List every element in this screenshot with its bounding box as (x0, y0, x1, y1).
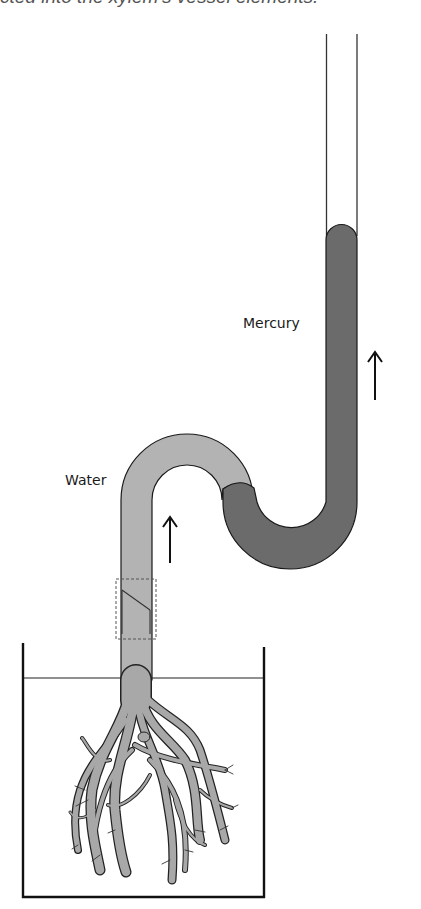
mercury-label: Mercury (243, 315, 300, 331)
water-label: Water (65, 472, 107, 488)
mercury-column (223, 225, 357, 570)
glass-tube (327, 34, 358, 236)
mercury-rise-arrow-icon (368, 352, 382, 400)
plant-roots (70, 680, 238, 880)
root-pressure-diagram: Mercury Water (0, 0, 421, 909)
water-column (121, 434, 253, 680)
water-rise-arrow-icon (163, 517, 177, 563)
